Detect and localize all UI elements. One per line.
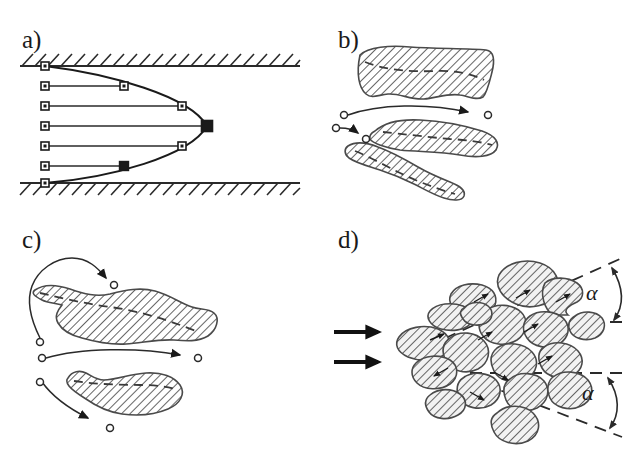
alpha-label-lower: α bbox=[582, 380, 594, 405]
marker-square bbox=[41, 162, 49, 170]
marker-square bbox=[41, 82, 49, 90]
marker-square bbox=[41, 122, 49, 130]
marker-square-filled bbox=[120, 162, 129, 171]
panel-b-particle-1 bbox=[358, 46, 493, 99]
marker-square bbox=[120, 82, 128, 90]
marker-square bbox=[178, 102, 186, 110]
marker-square bbox=[41, 179, 49, 187]
scientific-figure: a) bbox=[0, 0, 639, 454]
panel-c-label: c) bbox=[22, 226, 41, 254]
alpha-label-upper: α bbox=[586, 280, 598, 305]
marker-square bbox=[41, 62, 49, 70]
marker-square-vertex bbox=[202, 121, 213, 132]
panel-d-label: d) bbox=[338, 226, 359, 254]
panel-a-label: a) bbox=[22, 26, 41, 54]
marker-square bbox=[41, 102, 49, 110]
panel-b-label: b) bbox=[338, 26, 359, 54]
marker-square bbox=[178, 142, 186, 150]
marker-square bbox=[41, 142, 49, 150]
